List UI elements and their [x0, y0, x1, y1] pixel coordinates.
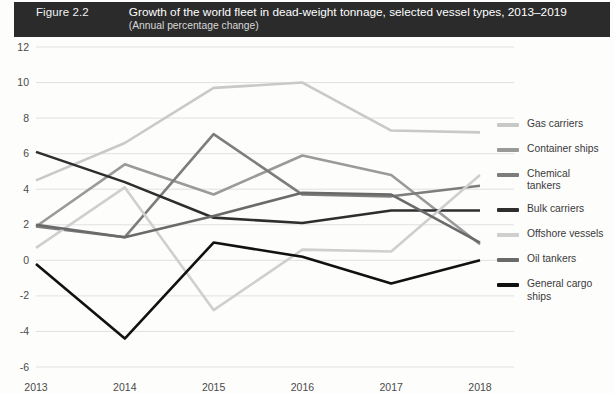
y-axis-tick-label: 4: [23, 183, 29, 195]
y-axis-tick-label: 8: [23, 112, 29, 124]
figure-title: Growth of the world fleet in dead-weight…: [129, 5, 567, 19]
legend-label: Chemical tankers: [527, 168, 570, 192]
legend-item[interactable]: General cargo ships: [497, 278, 614, 302]
y-axis-tick-label: -2: [20, 289, 29, 301]
series-line-oil-tankers: [36, 193, 480, 243]
figure-subtitle: (Annual percentage change): [129, 19, 567, 32]
legend-swatch-icon: [497, 148, 519, 152]
legend-label: Bulk carriers: [527, 203, 584, 215]
figure-header-bar: Figure 2.2 Growth of the world fleet in …: [14, 2, 610, 37]
x-axis-tick-label: 2014: [113, 381, 137, 393]
y-axis-tick-label: 0: [23, 254, 29, 266]
legend-item[interactable]: Gas carriers: [497, 118, 614, 132]
legend-label: Oil tankers: [527, 253, 576, 265]
legend-label: Gas carriers: [527, 118, 583, 130]
series-line-general-cargo-ships: [36, 243, 480, 339]
legend-item[interactable]: Bulk carriers: [497, 203, 614, 217]
legend-label: Container ships: [527, 143, 599, 155]
x-axis-tick-label: 2016: [291, 381, 315, 393]
legend-swatch-icon: [497, 173, 519, 177]
x-axis-tick-label: 2017: [380, 381, 404, 393]
legend-item[interactable]: Offshore vessels: [497, 228, 614, 242]
chart-legend: Gas carriersContainer shipsChemical tank…: [497, 118, 614, 314]
series-line-bulk-carriers: [36, 152, 480, 223]
series-line-chemical-tankers: [36, 134, 480, 237]
series-line-offshore-vessels: [36, 175, 480, 310]
legend-swatch-icon: [497, 123, 519, 127]
legend-swatch-icon: [497, 283, 519, 287]
y-axis-tick-label: 10: [17, 76, 29, 88]
legend-swatch-icon: [497, 208, 519, 212]
figure-container: Figure 2.2 Growth of the world fleet in …: [0, 0, 614, 394]
x-axis-tick-label: 2015: [202, 381, 226, 393]
y-axis-tick-label: 2: [23, 218, 29, 230]
y-axis-tick-label: 6: [23, 147, 29, 159]
legend-swatch-icon: [497, 258, 519, 262]
legend-swatch-icon: [497, 233, 519, 237]
legend-item[interactable]: Oil tankers: [497, 253, 614, 267]
x-axis-tick-label: 2013: [24, 381, 48, 393]
y-axis-tick-label: 12: [17, 41, 29, 53]
figure-number: Figure 2.2: [36, 5, 89, 18]
legend-item[interactable]: Container ships: [497, 143, 614, 157]
x-axis-tick-label: 2018: [468, 381, 492, 393]
y-axis-tick-label: -6: [20, 361, 29, 373]
legend-label: General cargo ships: [527, 278, 592, 302]
y-axis-tick-label: -4: [20, 325, 29, 337]
legend-label: Offshore vessels: [527, 228, 604, 240]
legend-item[interactable]: Chemical tankers: [497, 168, 614, 192]
